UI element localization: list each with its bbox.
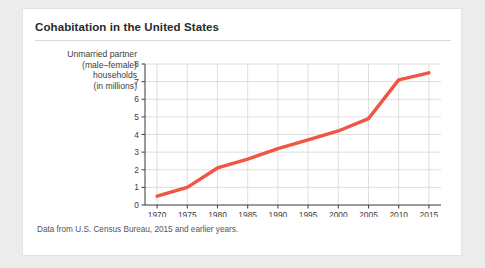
- x-tick-label: 2015: [420, 210, 439, 217]
- source-caption: Data from U.S. Census Bureau, 2015 and e…: [37, 225, 238, 234]
- page-title: Cohabitation in the United States: [35, 21, 219, 33]
- x-tick-labels: 1970197519801985199019952000200520102015: [148, 210, 439, 217]
- y-tick-label: 5: [134, 112, 139, 122]
- line-chart-svg: 012345678 197019751980198519901995200020…: [23, 45, 463, 217]
- x-tick-label: 1985: [238, 210, 257, 217]
- x-tick-label: 1975: [178, 210, 197, 217]
- x-tick-label: 1980: [208, 210, 227, 217]
- chart-area: Unmarried partner (male–female) househol…: [23, 45, 463, 217]
- y-tick-label: 8: [134, 59, 139, 69]
- y-tick-label: 4: [134, 130, 139, 140]
- y-tick-label: 3: [134, 147, 139, 157]
- y-tick-label: 6: [134, 94, 139, 104]
- y-tick-labels: 012345678: [134, 59, 139, 210]
- y-tick-label: 0: [134, 200, 139, 210]
- title-divider: [35, 40, 451, 41]
- x-tick-label: 2010: [389, 210, 408, 217]
- y-tick-label: 2: [134, 165, 139, 175]
- figure-card: Cohabitation in the United States Unmarr…: [22, 8, 462, 256]
- y-tick-label: 7: [134, 77, 139, 87]
- x-tick-label: 2005: [359, 210, 378, 217]
- x-tick-label: 1995: [299, 210, 318, 217]
- x-tick-label: 1970: [148, 210, 167, 217]
- y-tick-label: 1: [134, 182, 139, 192]
- x-tick-label: 2000: [329, 210, 348, 217]
- x-tick-label: 1990: [269, 210, 288, 217]
